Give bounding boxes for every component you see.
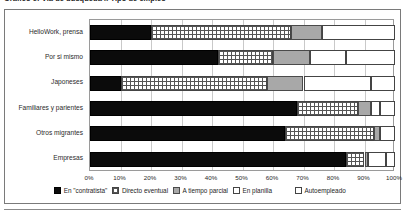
- page-title: Gráfico 6: Vía de búsqueda x Tipo de emp…: [4, 0, 166, 3]
- y-axis-label: Empresas: [0, 154, 83, 161]
- chart-frame: 0%10%20%30%40%50%60%70%80%90%100% HelloW…: [4, 9, 401, 204]
- legend-swatch-icon: [233, 187, 240, 194]
- bar-segment: [358, 101, 370, 116]
- bar-row: [90, 96, 393, 121]
- legend-swatch-icon: [54, 187, 61, 194]
- legend-item[interactable]: En "contratista": [54, 187, 107, 194]
- bar-row: [90, 121, 393, 146]
- y-axis-label: Familiares y parientes: [0, 104, 83, 111]
- bar-segment: [90, 101, 297, 116]
- x-axis-tick: 80%: [321, 174, 345, 181]
- bar-segment: [380, 101, 395, 116]
- y-axis-label: Japoneses: [0, 78, 83, 85]
- x-axis-tick: 20%: [138, 174, 162, 181]
- bar-segment: [380, 126, 395, 141]
- bar-segment: [273, 50, 310, 65]
- y-axis-label: Por si mismo: [0, 53, 83, 60]
- bar-segment: [121, 76, 267, 91]
- bar-segment: [322, 25, 395, 40]
- bar-segment: [346, 50, 395, 65]
- bar-segment: [371, 101, 380, 116]
- bar-segment: [304, 76, 371, 91]
- bar-segment: [346, 152, 364, 167]
- bar-segment: [151, 25, 291, 40]
- legend-label: Autoempleado: [305, 187, 346, 194]
- bar-segment: [285, 126, 373, 141]
- x-axis-tick: 10%: [108, 174, 132, 181]
- bar-segment: [90, 50, 218, 65]
- plot-area: [89, 19, 394, 171]
- bar-segment: [310, 50, 347, 65]
- bar-segment: [218, 50, 273, 65]
- y-axis-label: Otros migrantes: [0, 129, 83, 136]
- legend-label: Directo eventual: [122, 187, 168, 194]
- bar-segment: [291, 25, 322, 40]
- x-axis-tick: 0%: [77, 174, 101, 181]
- x-axis-tick: 60%: [260, 174, 284, 181]
- bar-row: [90, 71, 393, 96]
- bar-row: [90, 147, 393, 172]
- legend-swatch-icon: [112, 187, 119, 194]
- legend-item[interactable]: A tiempo parcial: [173, 187, 228, 194]
- legend-label: A tiempo parcial: [183, 187, 228, 194]
- x-axis-tick: 30%: [169, 174, 193, 181]
- stacked-bar: [90, 50, 393, 65]
- x-axis-tick: 100%: [382, 174, 406, 181]
- stacked-bar: [90, 25, 393, 40]
- bar-segment: [368, 152, 386, 167]
- bar-segment: [371, 76, 395, 91]
- x-axis-tick: 40%: [199, 174, 223, 181]
- legend-label: En planilla: [243, 187, 273, 194]
- bar-segment: [90, 76, 121, 91]
- bottom-divider: [4, 209, 401, 210]
- x-axis-tick: 70%: [291, 174, 315, 181]
- stacked-bar: [90, 76, 393, 91]
- bar-segment: [267, 76, 304, 91]
- y-axis-label: HelloWork, prensa: [0, 28, 83, 35]
- bar-row: [90, 45, 393, 70]
- bar-segment: [90, 152, 346, 167]
- legend-swatch-icon: [295, 187, 302, 194]
- stacked-bar: [90, 152, 393, 167]
- bar-row: [90, 20, 393, 45]
- chart-legend: En "contratista"Directo eventualA tiempo…: [4, 183, 401, 197]
- x-axis-tick: 90%: [352, 174, 376, 181]
- bar-segment: [297, 101, 358, 116]
- x-axis-tick: 50%: [230, 174, 254, 181]
- legend-swatch-icon: [173, 187, 180, 194]
- stacked-bar: [90, 101, 393, 116]
- legend-item[interactable]: Autoempleado: [295, 187, 346, 194]
- bar-segment: [90, 25, 151, 40]
- legend-label: En "contratista": [64, 187, 108, 194]
- bar-segment: [386, 152, 395, 167]
- legend-item[interactable]: En planilla: [233, 187, 272, 194]
- stacked-bar: [90, 126, 393, 141]
- bar-segment: [90, 126, 285, 141]
- legend-item[interactable]: Directo eventual: [112, 187, 168, 194]
